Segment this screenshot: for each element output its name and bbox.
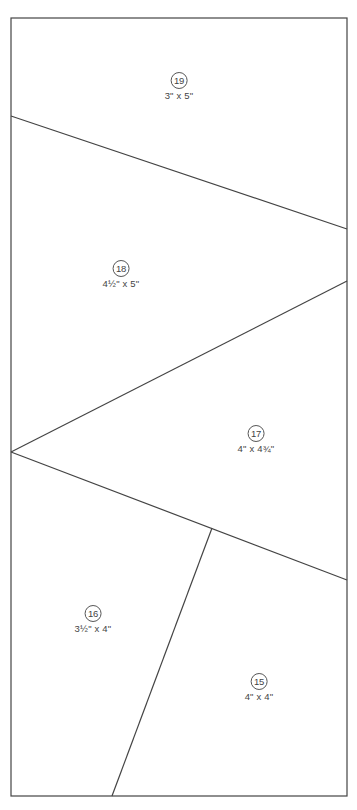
seam-line-19-18 [11, 116, 347, 229]
paper-piecing-diagram [0, 0, 357, 810]
piece-size-text: 3" x 5" [165, 90, 194, 101]
piece-size-text: 4" x 4" [245, 691, 274, 702]
piece-number-badge: 16 [85, 605, 102, 622]
piece-number-badge: 19 [171, 72, 188, 89]
piece-number-badge: 17 [248, 425, 265, 442]
template-border [11, 18, 347, 796]
piece-16-label: 16 3½" x 4" [75, 605, 112, 634]
seam-line-16-15 [112, 528, 212, 796]
piece-17-label: 17 4" x 4¾" [238, 425, 275, 454]
seam-line-18-17 [11, 281, 347, 452]
piece-size-text: 4½" x 5" [103, 278, 140, 289]
piece-number-badge: 15 [251, 673, 268, 690]
piece-size-text: 4" x 4¾" [238, 443, 275, 454]
piece-19-label: 19 3" x 5" [165, 72, 194, 101]
piece-number-badge: 18 [113, 260, 130, 277]
piece-18-label: 18 4½" x 5" [103, 260, 140, 289]
piece-size-text: 3½" x 4" [75, 623, 112, 634]
piece-15-label: 15 4" x 4" [245, 673, 274, 702]
seam-line-17-16-15 [11, 452, 347, 580]
